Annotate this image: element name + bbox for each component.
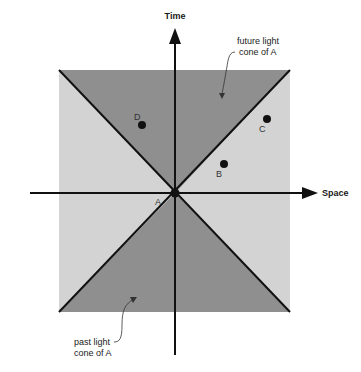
time-axis-arrowhead-icon xyxy=(169,28,181,44)
space-axis-label: Space xyxy=(322,188,349,198)
event-point-c xyxy=(263,115,271,123)
event-label-d: D xyxy=(134,112,141,122)
event-label-c: C xyxy=(259,124,266,134)
event-point-a xyxy=(171,189,180,198)
future-cone-label-line1: future light xyxy=(237,36,280,46)
event-point-b xyxy=(220,160,228,168)
time-axis-label: Time xyxy=(165,11,186,21)
event-label-b: B xyxy=(216,169,222,179)
past-cone-label-line2: cone of A xyxy=(74,348,112,358)
event-point-d xyxy=(138,121,146,129)
event-label-a: A xyxy=(155,197,161,207)
light-cone-diagram: Time Space A D C B future light cone of … xyxy=(0,0,361,372)
space-axis-arrowhead-icon xyxy=(302,187,318,199)
future-cone-label-line2: cone of A xyxy=(239,47,277,57)
past-cone-label-line1: past light xyxy=(74,337,111,347)
